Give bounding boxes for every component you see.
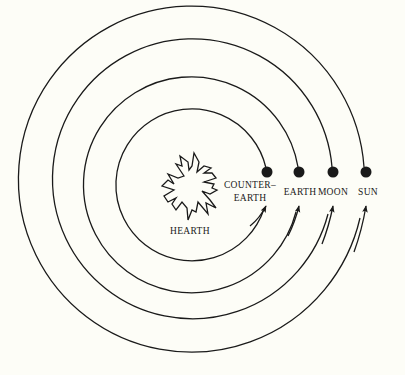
- label-earth: EARTH: [283, 186, 317, 199]
- label-counter-earth-line1: COUNTER–: [222, 179, 278, 192]
- label-counter-earth: COUNTER– EARTH: [222, 179, 278, 205]
- label-hearth: HEARTH: [166, 225, 214, 238]
- earth-body: [294, 167, 305, 178]
- orbit-diagram: HEARTH COUNTER– EARTH EARTH MOON SUN: [0, 0, 405, 375]
- label-moon: MOON: [316, 186, 350, 199]
- moon-body: [328, 167, 339, 178]
- counter-earth-body: [262, 167, 273, 178]
- orbit-sun: [18, 6, 371, 352]
- sun-body: [361, 167, 372, 178]
- fire-icon: [162, 153, 217, 220]
- label-sun: SUN: [357, 186, 379, 199]
- orbit-moon: [52, 39, 338, 319]
- label-counter-earth-line2: EARTH: [222, 192, 278, 205]
